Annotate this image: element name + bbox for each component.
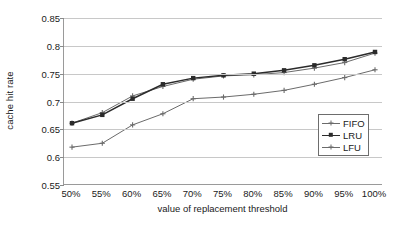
y-axis-title-text: cache hit rate	[4, 71, 15, 129]
data-point-marker	[373, 50, 377, 54]
data-point-marker	[251, 92, 256, 97]
gridline	[64, 157, 382, 158]
legend-label: LRU	[341, 130, 362, 141]
series-line	[72, 53, 375, 123]
y-axis-tick-label: 0.75	[20, 68, 60, 79]
data-point-marker	[221, 94, 226, 99]
data-point-marker	[69, 145, 74, 150]
y-axis-tick-labels: 0.850.80.750.70.650.60.55	[18, 0, 60, 234]
legend-item-lru: LRU	[321, 129, 365, 141]
y-axis-tick-mark	[60, 157, 64, 158]
data-point-marker	[130, 122, 135, 127]
legend-label: LFU	[341, 142, 361, 153]
chart-legend: FIFOLRULFU	[318, 114, 369, 156]
x-axis-tick-label: 50%	[61, 188, 80, 199]
x-axis-tick-label: 90%	[304, 188, 323, 199]
x-axis-tick-label: 75%	[213, 188, 232, 199]
y-axis-tick-mark	[60, 185, 64, 186]
x-axis-tick-labels: 50%55%60%65%70%75%80%85%90%95%100%	[63, 188, 382, 204]
x-axis-tick-label: 95%	[334, 188, 353, 199]
cache-hit-rate-line-chart: cache hit rate 0.850.80.750.70.650.60.55…	[0, 0, 406, 234]
data-point-marker	[282, 68, 286, 72]
x-axis-tick-label: 85%	[274, 188, 293, 199]
y-axis-tick-label: 0.7	[20, 96, 60, 107]
data-point-marker	[282, 88, 287, 93]
gridline	[64, 74, 382, 75]
data-point-marker	[312, 82, 317, 87]
y-axis-tick-mark	[60, 129, 64, 130]
data-point-marker	[100, 141, 105, 146]
gridline	[64, 18, 382, 19]
x-axis-tick-label: 65%	[152, 188, 171, 199]
y-axis-tick-mark	[60, 74, 64, 75]
data-point-marker	[130, 97, 134, 101]
legend-item-lfu: LFU	[321, 141, 365, 153]
y-axis-tick-label: 0.85	[20, 13, 60, 24]
data-point-marker	[100, 113, 104, 117]
gridline	[64, 102, 382, 103]
y-axis-tick-label: 0.65	[20, 124, 60, 135]
plot-area	[63, 18, 382, 185]
legend-swatch-lfu-icon	[321, 142, 341, 153]
y-axis-tick-label: 0.8	[20, 40, 60, 51]
y-axis-tick-mark	[60, 18, 64, 19]
y-axis-title: cache hit rate	[0, 0, 18, 200]
data-point-marker	[161, 82, 165, 86]
data-point-marker	[312, 63, 316, 67]
x-axis-title: value of replacement threshold	[63, 203, 382, 214]
x-axis-tick-label: 80%	[243, 188, 262, 199]
data-point-marker	[160, 111, 165, 116]
data-point-marker	[191, 76, 195, 80]
data-point-marker	[342, 75, 347, 80]
legend-item-fifo: FIFO	[321, 117, 365, 129]
y-axis-tick-mark	[60, 102, 64, 103]
data-point-marker	[70, 121, 74, 125]
x-axis-tick-label: 100%	[362, 188, 386, 199]
y-axis-tick-label: 0.55	[20, 180, 60, 191]
gridline	[64, 46, 382, 47]
x-axis-tick-label: 70%	[183, 188, 202, 199]
legend-swatch-lru-icon	[321, 130, 341, 141]
x-axis-tick-label: 55%	[92, 188, 111, 199]
legend-swatch-fifo-icon	[321, 118, 341, 129]
data-point-marker	[343, 57, 347, 61]
legend-label: FIFO	[341, 118, 365, 129]
y-axis-tick-label: 0.6	[20, 152, 60, 163]
data-point-marker	[372, 67, 377, 72]
series-line	[72, 52, 375, 123]
y-axis-tick-mark	[60, 46, 64, 47]
x-axis-tick-label: 60%	[122, 188, 141, 199]
